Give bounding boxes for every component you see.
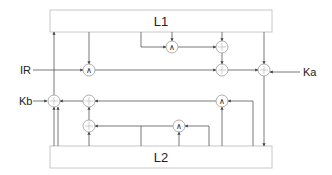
block-diagram: L1 L2 IR Ka Kb [0, 0, 332, 175]
node-sum-top-1 [216, 41, 228, 53]
and-operator-icon: ∧ [169, 43, 175, 52]
node-and-mid: ∧ [216, 95, 228, 107]
input-kb-label: Kb [19, 95, 32, 107]
block-l1-label: L1 [154, 14, 168, 29]
block-l2: L2 [50, 146, 272, 168]
and-operator-icon: ∧ [219, 97, 225, 106]
node-and-ir: ∧ [83, 64, 95, 76]
node-sum-mid-1 [83, 95, 95, 107]
node-sum-kb [48, 95, 60, 107]
input-ka-label: Ka [303, 66, 317, 78]
block-l1: L1 [50, 10, 272, 32]
node-and-top: ∧ [166, 41, 178, 53]
block-l2-label: L2 [154, 150, 168, 165]
node-and-bottom: ∧ [173, 120, 185, 132]
and-operator-icon: ∧ [176, 122, 182, 131]
node-sum-ka [258, 64, 270, 76]
node-sum-top-2 [216, 64, 228, 76]
and-operator-icon: ∧ [86, 66, 92, 75]
node-sum-mid-2 [83, 120, 95, 132]
input-ir-label: IR [20, 64, 31, 76]
